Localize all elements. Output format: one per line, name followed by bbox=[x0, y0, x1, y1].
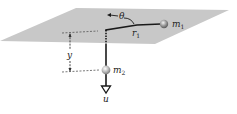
m1-label-main: m bbox=[172, 19, 181, 29]
mass-m1 bbox=[160, 20, 168, 28]
y-dimension-arrow-bottom bbox=[69, 68, 72, 72]
u-label: u bbox=[103, 94, 109, 104]
mass-on-table-diagram: θ r1 m1 m2 y u bbox=[0, 0, 237, 114]
m2-label-sub: 2 bbox=[122, 69, 126, 76]
unit-vector-u-arrowhead bbox=[102, 86, 111, 93]
r1-label-sub: 1 bbox=[136, 32, 140, 39]
y-ref-bottom bbox=[62, 70, 99, 72]
y-label: y bbox=[66, 50, 73, 60]
table-plane bbox=[0, 8, 229, 44]
m2-label-main: m bbox=[113, 65, 122, 75]
mass-m2 bbox=[102, 66, 111, 75]
m2-label: m2 bbox=[113, 65, 126, 76]
m1-label-sub: 1 bbox=[181, 23, 185, 30]
theta-label: θ bbox=[119, 11, 125, 21]
